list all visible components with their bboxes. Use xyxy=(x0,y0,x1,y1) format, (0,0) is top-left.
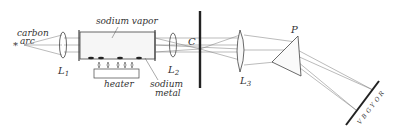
label-slit-c: C xyxy=(188,36,196,47)
heater-box xyxy=(94,69,139,78)
label-sodium-vapor: sodium vapor xyxy=(96,16,158,26)
prism-p xyxy=(272,36,301,76)
label-l1: L1 xyxy=(57,65,69,78)
label-arc: arc xyxy=(20,36,35,46)
sodium-vapor-tube xyxy=(80,32,155,59)
sodium-absorption-apparatus-diagram: * carbon arc L1 sodium vapor heater L2 s… xyxy=(0,0,396,135)
label-l3: L3 xyxy=(239,75,252,88)
label-sodium-metal-2: metal xyxy=(155,88,181,98)
label-l2: L2 xyxy=(167,64,180,77)
heater-flames xyxy=(98,62,133,68)
carbon-arc-symbol: * xyxy=(13,40,18,51)
label-heater: heater xyxy=(104,79,134,89)
lens-l3 xyxy=(237,30,244,72)
label-prism: P xyxy=(290,24,298,35)
